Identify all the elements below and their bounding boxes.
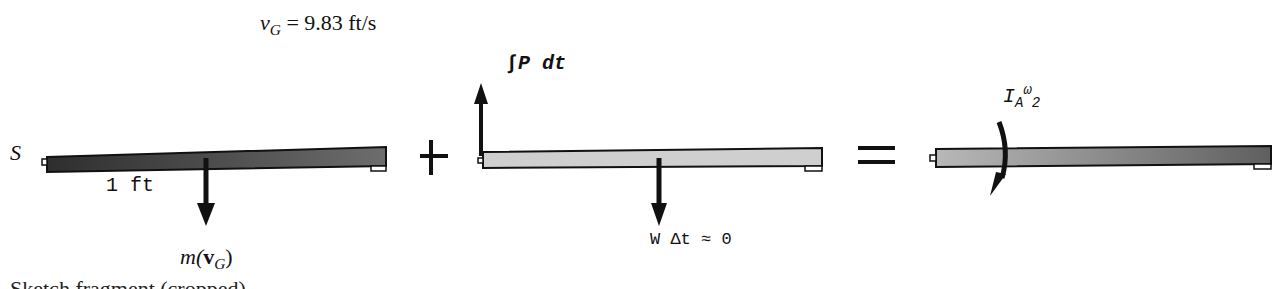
weight-arrow [651,158,667,226]
rod-panel2 [478,148,822,171]
plus-sign [420,140,448,175]
impulse-arrow [474,83,488,156]
angular-momentum-label: IAω2 [1003,82,1040,111]
impulse-label: ∫P dt [506,52,566,75]
point-s-label: S [10,140,21,166]
cropped-caption: Sketch fragment (cropped) [10,278,310,289]
weight-impulse-label: W Δt ≈ 0 [650,230,732,249]
length-label: 1 ft [106,174,154,197]
momentum-label: m(vG) [180,244,233,273]
rod-panel3 [930,146,1271,169]
velocity-label: vG = 9.83 ft/s [260,10,376,39]
rod-panel1 [42,147,386,172]
equals-sign [858,148,895,162]
